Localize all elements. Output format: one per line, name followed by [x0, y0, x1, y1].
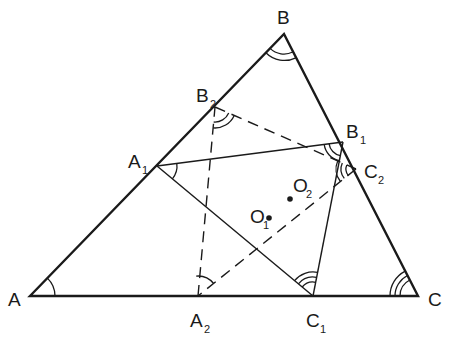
angle-mark-c1 — [302, 282, 316, 287]
angle-mark-a2 — [196, 276, 213, 283]
angle-mark-c — [400, 280, 410, 296]
label-a1: A — [128, 151, 141, 172]
geometry-figure: A B C A 1 B 1 C 1 A 2 B 2 C 2 O 1 O 2 — [0, 0, 454, 339]
label-a2-sub: 2 — [204, 323, 210, 335]
label-c2-sub: 2 — [378, 174, 384, 186]
label-a2: A — [190, 310, 203, 331]
label-c1: C — [306, 310, 320, 331]
label-b1-sub: 1 — [360, 134, 366, 146]
label-c: C — [428, 289, 442, 310]
label-o2-sub: 2 — [306, 188, 312, 200]
vertex-labels: A B C A 1 B 1 C 1 A 2 B 2 C 2 O 1 O 2 — [8, 7, 442, 335]
angle-mark-b1 — [329, 144, 340, 156]
point-o2 — [287, 196, 293, 202]
triangle-a2b2c2-dashed — [198, 107, 356, 296]
label-o1-sub: 1 — [263, 219, 269, 231]
angle-mark-c2 — [346, 165, 348, 175]
angle-mark-a1 — [172, 163, 177, 178]
center-points — [266, 196, 293, 221]
label-a: A — [8, 289, 21, 310]
outer-triangle — [30, 34, 418, 296]
label-c1-sub: 1 — [320, 323, 326, 335]
label-c2: C — [364, 161, 378, 182]
figure-canvas: A B C A 1 B 1 C 1 A 2 B 2 C 2 O 1 O 2 — [0, 0, 454, 339]
label-b2-sub: 2 — [210, 98, 216, 110]
angle-mark-a — [47, 278, 55, 296]
label-a1-sub: 1 — [142, 164, 148, 176]
label-b2: B — [196, 85, 209, 106]
angle-mark-b — [270, 48, 293, 54]
angle-mark-b2 — [214, 113, 229, 122]
label-b1: B — [346, 121, 359, 142]
label-b: B — [277, 7, 290, 28]
